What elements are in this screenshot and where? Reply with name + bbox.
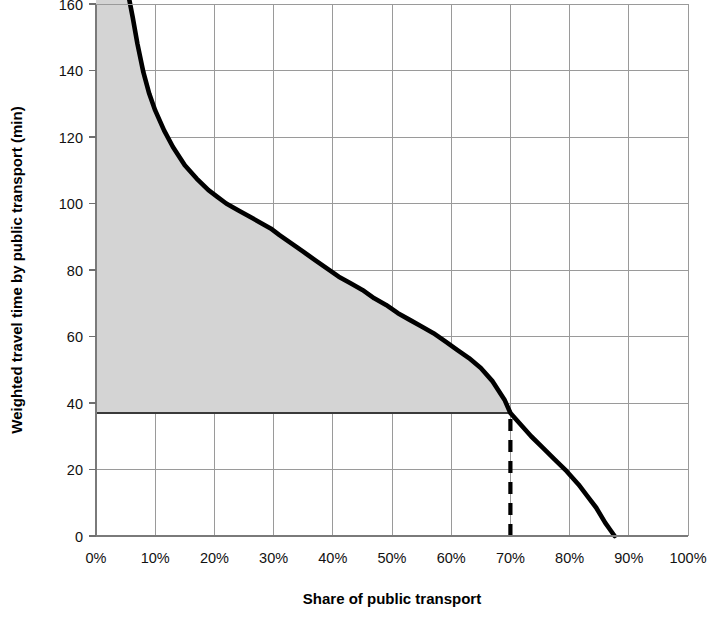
y-tick-label-0: 0 (75, 529, 83, 545)
travel-time-share-chart: 0204060801001201401600%10%20%30%40%50%60… (0, 0, 718, 622)
y-tick-label-100: 100 (59, 196, 83, 212)
x-tick-label-0%: 0% (86, 550, 107, 566)
y-tick-label-160: 160 (59, 0, 83, 13)
x-tick-label-70%: 70% (496, 550, 525, 566)
x-tick-label-90%: 90% (614, 550, 643, 566)
chart-container: 0204060801001201401600%10%20%30%40%50%60… (0, 0, 718, 622)
x-tick-label-10%: 10% (141, 550, 170, 566)
x-tick-label-60%: 60% (437, 550, 466, 566)
y-tick-label-40: 40 (67, 396, 83, 412)
y-axis-title: Weighted travel time by public transport… (8, 106, 25, 433)
x-tick-label-50%: 50% (377, 550, 406, 566)
x-tick-label-100%: 100% (669, 550, 706, 566)
x-tick-label-30%: 30% (259, 550, 288, 566)
y-tick-label-60: 60 (67, 329, 83, 345)
y-tick-label-80: 80 (67, 263, 83, 279)
y-tick-label-120: 120 (59, 130, 83, 146)
x-tick-label-80%: 80% (555, 550, 584, 566)
x-tick-label-20%: 20% (200, 550, 229, 566)
y-tick-label-20: 20 (67, 462, 83, 478)
y-tick-label-140: 140 (59, 63, 83, 79)
x-tick-label-40%: 40% (318, 550, 347, 566)
x-axis-title: Share of public transport (303, 590, 481, 607)
